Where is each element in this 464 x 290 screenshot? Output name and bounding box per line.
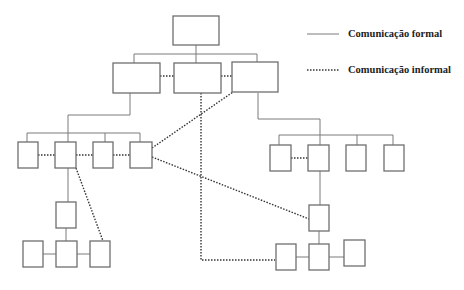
node-right-bottom-3	[344, 240, 365, 266]
informal-connections	[38, 76, 309, 260]
legend-informal-label: Comunicação informal	[348, 64, 451, 75]
node-right-l3-2	[308, 145, 329, 171]
node-right-l3-1	[270, 145, 291, 171]
node-left-l3-2	[55, 142, 76, 168]
node-right-bottom-1	[276, 244, 296, 270]
legend-formal-label: Comunicação formal	[348, 28, 442, 39]
node-right-l3-3	[346, 145, 366, 171]
node-left-sub	[56, 202, 76, 228]
node-right-l3-4	[384, 145, 404, 171]
node-left-bottom-3	[90, 241, 110, 267]
node-left-l3-1	[18, 142, 38, 168]
node-left-bottom-1	[23, 241, 43, 267]
node-left-l3-4	[130, 142, 152, 168]
node-l2-left	[113, 63, 160, 93]
node-l2-middle	[174, 63, 221, 93]
node-l2-right	[232, 62, 278, 92]
node-left-bottom-2	[56, 241, 77, 267]
legend: Comunicação formal Comunicação informal	[307, 28, 451, 75]
org-chart: Comunicação formal Comunicação informal	[0, 0, 464, 290]
node-right-sub	[309, 205, 329, 231]
node-left-l3-3	[93, 142, 113, 168]
node-top	[173, 16, 219, 45]
node-right-bottom-2	[309, 244, 329, 270]
